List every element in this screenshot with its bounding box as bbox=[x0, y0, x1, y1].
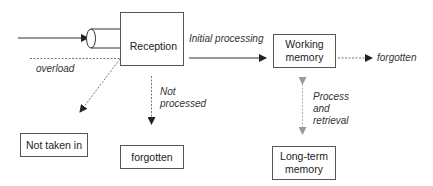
long-term-memory-label-line1: Long-term bbox=[280, 150, 328, 163]
reception-label: Reception bbox=[130, 40, 177, 53]
not-taken-in-arrow bbox=[80, 59, 120, 112]
not-taken-in-label: Not taken in bbox=[26, 139, 82, 152]
working-memory-label-line1: Working bbox=[285, 38, 323, 51]
not-taken-in-node: Not taken in bbox=[20, 133, 88, 157]
sensory-funnel bbox=[87, 29, 121, 48]
forgotten-out-label: forgotten bbox=[377, 52, 416, 64]
long-term-memory-node: Long-term memory bbox=[272, 146, 336, 180]
diagram-connectors bbox=[0, 0, 433, 186]
working-memory-node: Working memory bbox=[273, 34, 336, 68]
process-retrieval-label: Process and retrieval bbox=[313, 91, 349, 127]
process-retrieval-line1: Process bbox=[313, 91, 349, 103]
not-processed-line1: Not bbox=[160, 86, 206, 98]
long-term-memory-label-line2: memory bbox=[285, 163, 323, 176]
reception-node: Reception bbox=[120, 12, 184, 66]
process-retrieval-line2: and bbox=[313, 103, 349, 115]
forgotten-node-label: forgotten bbox=[131, 151, 172, 164]
not-processed-line2: processed bbox=[160, 98, 206, 110]
not-processed-label: Not processed bbox=[160, 86, 206, 110]
working-memory-label-line2: memory bbox=[286, 51, 324, 64]
process-retrieval-line3: retrieval bbox=[313, 115, 349, 127]
overload-label: overload bbox=[36, 63, 74, 75]
forgotten-node: forgotten bbox=[120, 145, 184, 169]
initial-processing-label: Initial processing bbox=[189, 33, 263, 45]
